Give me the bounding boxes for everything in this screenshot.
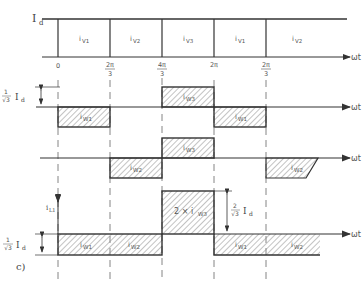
block-label: i bbox=[128, 241, 130, 249]
segment-label: i bbox=[79, 35, 81, 43]
block-label: i bbox=[291, 164, 293, 172]
block-sub: W2 bbox=[133, 167, 142, 173]
peak-den: √3 bbox=[231, 210, 239, 217]
block-sub: W3 bbox=[186, 147, 195, 153]
plot-w1: ωt 1 √3 I d i W1 i W3 i W1 bbox=[2, 87, 361, 127]
block-label: i bbox=[183, 144, 185, 152]
figure-label: c) bbox=[16, 261, 26, 272]
tick-den: 3 bbox=[108, 70, 112, 78]
amp-den: √3 bbox=[4, 244, 12, 251]
block-label: i bbox=[80, 241, 82, 249]
l1-axis-label: ωt bbox=[351, 230, 361, 239]
peak-block-label: 2 × i bbox=[174, 207, 193, 216]
top-plot: I d ωt i V1 i V2 i V3 i V1 i V2 0 2π bbox=[32, 12, 361, 78]
plot-w2: ωt i W3 i W2 i W2 bbox=[40, 138, 361, 178]
block-label: i bbox=[235, 241, 237, 249]
tick-den: 3 bbox=[264, 70, 268, 78]
block-label: i bbox=[130, 164, 132, 172]
amp-num: 1 bbox=[6, 236, 10, 243]
peak-unit: I bbox=[243, 206, 247, 216]
segment-label: i bbox=[130, 35, 132, 43]
plot-l1: i L1 ωt 1 √3 I d 2 √3 I d 2 × i W3 i W1 … bbox=[3, 191, 361, 272]
id-label-sub: d bbox=[39, 19, 44, 27]
block-sub: W2 bbox=[131, 244, 140, 250]
block-sub: W3 bbox=[186, 96, 195, 102]
amp-unit: I bbox=[16, 240, 20, 250]
block-label: i bbox=[183, 93, 185, 101]
top-axis-label: ωt bbox=[351, 53, 361, 62]
tick-num: 2π bbox=[210, 61, 218, 69]
tick-den: 3 bbox=[160, 70, 164, 78]
segment-label: i bbox=[292, 35, 294, 43]
segment-label: i bbox=[183, 35, 185, 43]
block-sub: W1 bbox=[238, 116, 247, 122]
tick-num: 0 bbox=[56, 62, 60, 70]
id-label: I bbox=[32, 12, 36, 25]
il1-label-sub: L1 bbox=[49, 207, 56, 213]
amp-den: √3 bbox=[2, 96, 10, 103]
peak-sub: d bbox=[249, 210, 253, 217]
block-sub: W1 bbox=[83, 116, 92, 122]
peak-block-sub: W3 bbox=[198, 211, 207, 217]
tick-num: 2π bbox=[106, 61, 114, 69]
segment-sub: V2 bbox=[295, 38, 302, 44]
block-label: i bbox=[80, 113, 82, 121]
w1-axis-label: ωt bbox=[351, 103, 361, 112]
segment-sub: V3 bbox=[186, 38, 194, 44]
amp-unit: I bbox=[15, 92, 19, 102]
tick-num: 2π bbox=[262, 61, 270, 69]
current-waveform-diagram: I d ωt i V1 i V2 i V3 i V1 i V2 0 2π bbox=[0, 0, 362, 289]
w2-axis-label: ωt bbox=[351, 154, 361, 163]
block-sub: W2 bbox=[294, 244, 303, 250]
amp-sub: d bbox=[21, 96, 25, 103]
block-label: i bbox=[291, 241, 293, 249]
block-sub: W1 bbox=[238, 244, 247, 250]
block-sub: W1 bbox=[83, 244, 92, 250]
tick-num: 4π bbox=[158, 61, 166, 69]
amp-num: 1 bbox=[4, 88, 8, 95]
segment-sub: V1 bbox=[238, 38, 245, 44]
amp-sub: d bbox=[22, 244, 26, 251]
segment-sub: V1 bbox=[82, 38, 89, 44]
block-label: i bbox=[235, 113, 237, 121]
segment-label: i bbox=[235, 35, 237, 43]
block-sub: W2 bbox=[294, 167, 303, 173]
segment-sub: V2 bbox=[133, 38, 140, 44]
peak-num: 2 bbox=[233, 202, 237, 209]
